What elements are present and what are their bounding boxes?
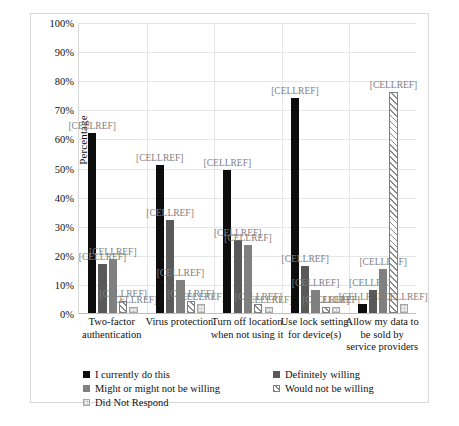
bar: [197, 304, 205, 313]
x-axis-category-label: Two-factor authentication: [75, 316, 149, 341]
bar-data-label: [CELLREF]: [370, 80, 418, 90]
bar: [129, 307, 137, 313]
bar: [301, 266, 309, 313]
legend-item-label: Might or might not be willing: [95, 383, 220, 394]
bar: [358, 304, 366, 313]
bar-data-label: [CELLREF]: [359, 257, 407, 267]
bar-group: [CELLREF][CELLREF][CELLREF][CELLREF][CEL…: [282, 23, 350, 313]
bar-data-label: [CELLREF]: [224, 233, 272, 243]
bar: [400, 304, 408, 313]
bar: [254, 304, 262, 313]
y-axis-tick-label: 20%: [55, 250, 74, 261]
bar-data-label: [CELLREF]: [89, 247, 137, 257]
bar: [98, 264, 106, 313]
legend-item[interactable]: I currently do this: [83, 369, 170, 380]
bar-data-label: [CELLREF]: [271, 86, 319, 96]
bar-data-label: [CELLREF]: [136, 153, 184, 163]
x-axis-category-labels: Two-factor authenticationVirus protectio…: [78, 316, 416, 362]
legend-item[interactable]: Did Not Respond: [83, 397, 169, 408]
chart-container: Percentage 100%90%80%70%60%50%40%30%20%1…: [30, 13, 429, 403]
bar-group: [CELLREF][CELLREF][CELLREF][CELLREF][CEL…: [349, 23, 417, 313]
legend-swatch-icon: [83, 371, 90, 378]
legend-item-label: Did Not Respond: [95, 397, 169, 408]
y-axis-tick-label: 40%: [55, 192, 74, 203]
bar: [88, 133, 96, 313]
bar: [265, 307, 273, 313]
bar-group: [CELLREF][CELLREF][CELLREF][CELLREF][CEL…: [214, 23, 282, 313]
bar-data-label: [CELLREF]: [204, 158, 252, 168]
y-axis-tick-label: 0%: [60, 309, 74, 320]
legend-item-label: Definitely willing: [285, 369, 360, 380]
y-axis-tick-label: 30%: [55, 221, 74, 232]
y-axis-tick-label: 50%: [55, 163, 74, 174]
legend-item[interactable]: Might or might not be willing: [83, 383, 220, 394]
x-axis-category-label: Turn off location when not using it: [210, 316, 284, 341]
bar-data-label: [CELLREF]: [157, 268, 205, 278]
bar-data-label: [CELLREF]: [282, 254, 330, 264]
y-axis-tick-label: 70%: [55, 105, 74, 116]
bar-data-label: [CELLREF]: [146, 208, 194, 218]
legend-item[interactable]: Would not be willing: [273, 383, 374, 394]
legend-swatch-icon: [83, 385, 90, 392]
bar-data-label: [CELLREF]: [292, 278, 340, 288]
x-axis-category-label: Allow my data to be sold by service prov…: [345, 316, 419, 354]
bar-data-label: [CELLREF]: [68, 121, 116, 131]
chart-legend: I currently do thisDefinitely willingMig…: [83, 369, 413, 415]
y-axis-tick-label: 100%: [50, 18, 75, 29]
x-axis-category-label: Use lock setting for device(s): [278, 316, 352, 341]
bar-data-label: [CELLREF]: [380, 292, 428, 302]
bar: [332, 307, 340, 313]
bar: [379, 269, 387, 313]
legend-swatch-icon: [273, 371, 280, 378]
bar: [322, 307, 330, 313]
y-axis-tick-label: 90%: [55, 47, 74, 58]
bar: [156, 165, 164, 313]
bar: [369, 290, 377, 313]
legend-swatch-icon: [83, 399, 90, 406]
x-axis-category-label: Virus protection: [143, 316, 217, 329]
legend-swatch-icon: [273, 385, 280, 392]
bar: [187, 301, 195, 313]
legend-item-label: I currently do this: [95, 369, 170, 380]
legend-item-label: Would not be willing: [285, 383, 374, 394]
y-axis-tick-label: 60%: [55, 134, 74, 145]
plot-area: 100%90%80%70%60%50%40%30%20%10%0%[CELLRE…: [78, 23, 416, 314]
legend-item[interactable]: Definitely willing: [273, 369, 360, 380]
bar: [389, 92, 397, 313]
bar-group: [CELLREF][CELLREF][CELLREF][CELLREF][CEL…: [79, 23, 147, 313]
y-axis-tick-label: 80%: [55, 76, 74, 87]
y-axis-tick-label: 10%: [55, 279, 74, 290]
